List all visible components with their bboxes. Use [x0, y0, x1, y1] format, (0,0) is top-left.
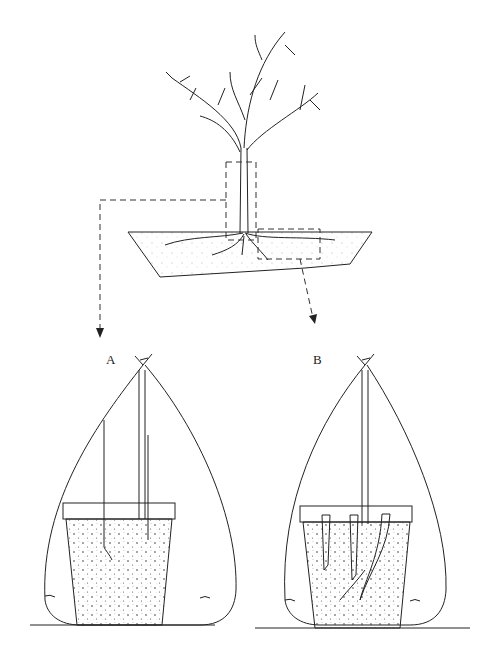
- arrowheads: [96, 314, 317, 338]
- pot-b: [255, 354, 470, 628]
- propagation-diagram: [0, 0, 490, 665]
- label-a: A: [106, 352, 115, 368]
- label-b: B: [313, 352, 322, 368]
- pot-a: [30, 354, 236, 625]
